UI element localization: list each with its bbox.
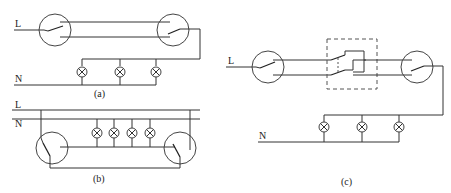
- two-way-switch-icon: [252, 51, 284, 83]
- intermediate-switch-icon: [327, 39, 412, 89]
- caption-a: (a): [94, 88, 105, 100]
- lamp-icon: [127, 119, 137, 147]
- lamp-icon: [145, 119, 155, 147]
- line-label-b: L: [15, 99, 21, 110]
- lamp-icon: [115, 67, 125, 77]
- two-way-switch-icon: [36, 132, 68, 164]
- lamp-icon: [92, 119, 102, 147]
- lamp-icon: [319, 122, 329, 132]
- diagram-a: L N (a): [14, 14, 200, 100]
- two-way-switch-icon: [401, 51, 443, 83]
- two-way-switch-icon: [164, 110, 196, 164]
- line-label-c: L: [228, 55, 234, 66]
- line-label-a: L: [15, 18, 21, 29]
- lamp-icon: [394, 122, 404, 132]
- neutral-label-a: N: [15, 73, 22, 84]
- lamp-icon: [357, 122, 367, 132]
- lamp-icon: [77, 67, 87, 77]
- circuit-diagrams: L N (a): [0, 0, 451, 193]
- neutral-label-b: N: [15, 118, 22, 129]
- diagram-c: L: [226, 39, 443, 188]
- lamp-icon: [151, 67, 161, 77]
- diagram-b: L N: [12, 99, 200, 185]
- lamp-icon: [109, 119, 119, 147]
- caption-c: (c): [341, 176, 352, 188]
- neutral-label-c: N: [259, 130, 266, 141]
- two-way-switch-icon: [157, 14, 200, 46]
- caption-b: (b): [93, 173, 105, 185]
